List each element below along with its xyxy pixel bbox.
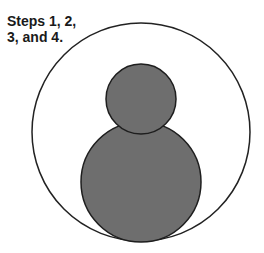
head-circle	[106, 64, 176, 134]
body-circle	[81, 122, 201, 242]
snowman-diagram	[0, 0, 264, 253]
